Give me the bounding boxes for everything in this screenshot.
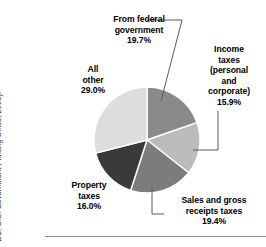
slice-label-sales-line2: receipts taxes [186, 206, 243, 216]
slice-label-federal: From federal government 19.7% [97, 14, 181, 46]
slice-label-all-other: All other 29.0% [63, 64, 123, 96]
slice-label-income-line4: and [221, 76, 236, 86]
slice-label-sales-line1: Sales and gross [181, 195, 246, 205]
slice-label-all-other-line1: All [88, 64, 99, 74]
slice-label-income-line5: corporate) [208, 86, 250, 96]
bottom-divider-rule [45, 236, 266, 237]
slice-label-property: Property taxes 16.0% [57, 180, 121, 212]
pie-chart-figure: SOURCE: Economic Report of the President… [0, 0, 266, 247]
slice-label-property-line2: taxes [78, 191, 100, 201]
slice-label-federal-pct: 19.7% [97, 35, 181, 46]
slice-label-sales: Sales and gross receipts taxes 19.4% [166, 195, 262, 227]
pie-slices-group [94, 87, 200, 193]
slice-label-all-other-line2: other [82, 75, 103, 85]
slice-label-sales-pct: 19.4% [166, 216, 262, 227]
slice-label-income: Income taxes (personal and corporate) 15… [196, 44, 262, 108]
slice-label-income-line2: taxes [218, 55, 240, 65]
slice-label-property-pct: 16.0% [57, 201, 121, 212]
slice-label-income-line3: (personal [210, 65, 248, 75]
slice-label-income-line1: Income [214, 44, 244, 54]
slice-label-income-pct: 15.9% [196, 97, 262, 108]
slice-label-federal-line2: government [115, 25, 164, 35]
slice-label-federal-line1: From federal [113, 14, 164, 24]
slice-label-property-line1: Property [72, 180, 107, 190]
slice-label-all-other-pct: 29.0% [63, 85, 123, 96]
